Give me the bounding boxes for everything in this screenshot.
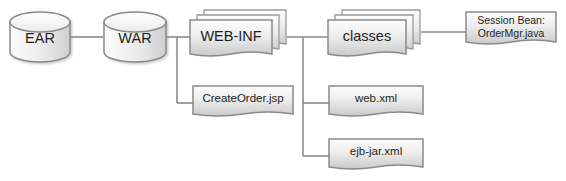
ear-label: EAR (25, 30, 55, 46)
session-bean-label-line1: Session Bean: (477, 14, 545, 26)
war-label: WAR (118, 30, 151, 46)
classes-label: classes (343, 28, 391, 44)
ejb-jar-xml-label: ejb-jar.xml (350, 145, 402, 157)
deployment-structure-diagram: EAR WAR WEB-INF classes Session Bean: Or… (0, 0, 566, 181)
web-inf-label: WEB-INF (200, 28, 261, 44)
create-order-jsp-label: CreateOrder.jsp (202, 92, 283, 104)
web-xml-label: web.xml (354, 92, 397, 104)
diagram-canvas: EAR WAR WEB-INF classes Session Bean: Or… (0, 0, 566, 181)
session-bean-label-line2: OrderMgr.java (478, 27, 545, 39)
